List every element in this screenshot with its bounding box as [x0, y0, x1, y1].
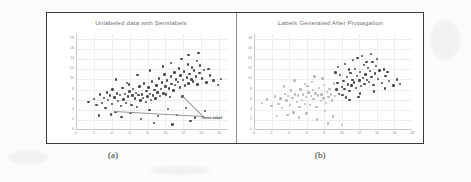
- scatter-point: [348, 68, 350, 70]
- scatter-point: [172, 89, 174, 91]
- scatter-point: [138, 85, 140, 87]
- gridline-horizontal: [76, 39, 228, 40]
- y-axis-line: [254, 34, 255, 130]
- scatter-point: [311, 81, 313, 83]
- gridline-horizontal: [76, 120, 228, 121]
- scatter-point: [327, 96, 329, 98]
- scatter-point: [324, 110, 326, 112]
- panel-b-title: Labels Generated After Propagation: [237, 19, 424, 26]
- x-axis-tick-label: 0: [249, 132, 259, 136]
- scatter-point: [286, 114, 288, 116]
- scatter-point: [378, 69, 380, 71]
- scatter-point: [137, 94, 139, 96]
- scatter-point: [370, 76, 372, 78]
- scatter-point: [344, 63, 346, 65]
- scatter-point: [164, 85, 166, 87]
- panel-a: Unlabeled data with Semilabels 024681012…: [46, 12, 236, 144]
- scatter-point: [187, 63, 189, 65]
- scatter-point: [332, 115, 334, 117]
- scatter-point: [358, 79, 360, 81]
- scatter-point: [347, 83, 349, 85]
- scatter-point: [87, 101, 89, 103]
- scatter-point: [325, 102, 327, 104]
- x-axis-tick-label: 10: [160, 132, 170, 136]
- scatter-point: [283, 85, 285, 87]
- y-axis-tick-label: 12: [67, 67, 74, 71]
- scatter-point: [110, 113, 112, 115]
- scatter-point: [154, 97, 156, 99]
- caption-b: (b): [315, 150, 326, 160]
- scatter-point: [130, 104, 132, 106]
- scatter-point: [201, 77, 203, 79]
- scatter-point: [134, 97, 136, 99]
- scatter-point: [195, 75, 197, 77]
- y-axis-tick-label: 16: [67, 47, 74, 51]
- scatter-point: [205, 81, 207, 83]
- scatter-point: [305, 112, 307, 114]
- gridline-vertical: [377, 34, 378, 130]
- scatter-point: [163, 73, 165, 75]
- scatter-point: [334, 95, 336, 97]
- y-axis-tick-label: 2: [245, 118, 252, 122]
- scatter-point: [279, 97, 281, 99]
- scatter-point: [302, 93, 304, 95]
- scatter-point: [304, 103, 306, 105]
- scatter-point: [95, 104, 97, 106]
- scatter-point: [360, 85, 362, 87]
- scatter-point: [330, 93, 332, 95]
- panel-b-plot-area: [254, 34, 412, 130]
- scatter-point: [371, 61, 373, 63]
- x-axis-tick-label: 14: [372, 132, 382, 136]
- scatter-point: [155, 84, 157, 86]
- scatter-point: [189, 120, 191, 122]
- gridline-horizontal: [76, 49, 228, 50]
- scatter-point: [274, 95, 276, 97]
- scatter-point: [198, 72, 200, 74]
- scatter-point: [106, 91, 108, 93]
- scatter-point: [356, 75, 358, 77]
- scatter-point: [298, 116, 300, 118]
- scatter-point: [383, 68, 385, 70]
- scatter-point: [173, 71, 175, 73]
- y-axis-tick-label: 14: [245, 57, 252, 61]
- scatter-point: [141, 93, 143, 95]
- y-axis-tick-label: 4: [245, 108, 252, 112]
- y-axis-tick-label: 4: [67, 108, 74, 112]
- scatter-point: [128, 83, 130, 85]
- scatter-point: [177, 81, 179, 83]
- scatter-point: [125, 102, 127, 104]
- y-axis-line: [76, 34, 77, 130]
- scatter-point: [270, 105, 272, 107]
- scatter-point: [165, 93, 167, 95]
- scatter-point: [365, 61, 367, 63]
- scatter-point: [348, 99, 350, 101]
- scatter-point: [171, 123, 173, 125]
- scan-artifact: [430, 20, 460, 60]
- y-axis-tick-label: 8: [67, 88, 74, 92]
- scatter-point: [299, 88, 301, 90]
- scatter-point: [313, 75, 315, 77]
- scatter-point: [335, 88, 337, 90]
- y-axis-tick-label: 6: [67, 98, 74, 102]
- scatter-point: [174, 84, 176, 86]
- scatter-point: [341, 94, 343, 96]
- scatter-point: [104, 107, 106, 109]
- scatter-point: [150, 99, 152, 101]
- scatter-point: [193, 69, 195, 71]
- scatter-point: [143, 82, 145, 84]
- scatter-point: [359, 92, 361, 94]
- x-axis-line: [254, 129, 412, 130]
- scatter-point: [337, 66, 339, 68]
- scatter-point: [113, 96, 115, 98]
- scatter-point: [293, 79, 295, 81]
- scatter-point: [188, 73, 190, 75]
- scatter-point: [306, 85, 308, 87]
- annotation-leader-line: [115, 111, 203, 117]
- gridline-vertical: [148, 34, 149, 130]
- scatter-point: [124, 93, 126, 95]
- scatter-point: [186, 76, 188, 78]
- scatter-point: [388, 80, 390, 82]
- scatter-point: [111, 88, 113, 90]
- scatter-point: [120, 105, 122, 107]
- scatter-point: [185, 107, 187, 109]
